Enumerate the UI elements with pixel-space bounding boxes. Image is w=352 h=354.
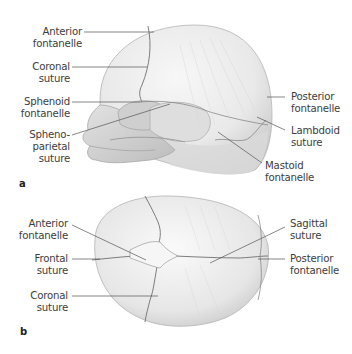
label-line: suture	[0, 153, 70, 165]
label-line: fontanelle	[0, 108, 70, 120]
label-coronal-suture-a: Coronal suture	[0, 61, 70, 85]
label-line: fontanelle	[265, 172, 314, 184]
label-posterior-fontanelle-b: Posterior fontanelle	[290, 253, 339, 277]
label-line: Spheno-	[0, 129, 70, 141]
lateral-skull-drawing	[83, 25, 272, 174]
label-lambdoid-suture-a: Lambdoid suture	[291, 125, 340, 149]
label-line: fontanelle	[290, 265, 339, 277]
label-line: suture	[0, 73, 70, 85]
label-line: Mastoid	[265, 160, 314, 172]
label-coronal-suture-b: Coronal suture	[0, 290, 68, 314]
label-line: Lambdoid	[291, 125, 340, 137]
label-line: Posterior	[291, 91, 340, 103]
label-line: Anterior	[0, 218, 68, 230]
label-line: Coronal	[0, 290, 68, 302]
label-frontal-suture-b: Frontal suture	[0, 253, 68, 277]
label-line: Anterior	[10, 26, 82, 38]
label-anterior-fontanelle-b: Anterior fontanelle	[0, 218, 68, 242]
label-line: Frontal	[0, 253, 68, 265]
label-sphenoparietal-suture-a: Spheno- parietal suture	[0, 129, 70, 165]
label-line: parietal	[0, 141, 70, 153]
neonatal-skull-figure: Anterior fontanelle Coronal suture Sphen…	[0, 0, 352, 354]
label-line: fontanelle	[0, 230, 68, 242]
label-line: suture	[291, 137, 340, 149]
label-line: Posterior	[290, 253, 339, 265]
label-line: fontanelle	[291, 103, 340, 115]
label-line: Coronal	[0, 61, 70, 73]
label-line: suture	[0, 265, 68, 277]
label-line: fontanelle	[10, 38, 82, 50]
label-line: Sagittal	[290, 218, 327, 230]
label-mastoid-fontanelle-a: Mastoid fontanelle	[265, 160, 314, 184]
label-line: suture	[0, 302, 68, 314]
label-sagittal-suture-b: Sagittal suture	[290, 218, 327, 242]
label-anterior-fontanelle-a: Anterior fontanelle	[10, 26, 82, 50]
panel-letter-b: b	[20, 326, 27, 337]
label-posterior-fontanelle-a: Posterior fontanelle	[291, 91, 340, 115]
label-sphenoid-fontanelle-a: Sphenoid fontanelle	[0, 96, 70, 120]
panel-letter-a: a	[19, 178, 26, 189]
superior-skull-drawing	[92, 196, 269, 326]
label-line: suture	[290, 230, 327, 242]
label-line: Sphenoid	[0, 96, 70, 108]
